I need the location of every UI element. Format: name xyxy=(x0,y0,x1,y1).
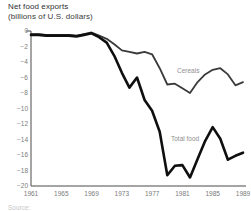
cereals-line xyxy=(31,33,243,94)
y-tick-label: −20 xyxy=(17,182,28,189)
y-tick-label: −8 xyxy=(21,89,29,96)
total-food-line xyxy=(31,33,243,177)
x-tick-label: 1973 xyxy=(115,190,130,197)
x-tick-label: 1965 xyxy=(54,190,69,197)
x-tick-label: 1969 xyxy=(84,190,99,197)
cereals-label: Cereals xyxy=(177,67,200,74)
y-tick-label: −14 xyxy=(17,136,28,143)
x-tick-label: 1985 xyxy=(205,190,220,197)
chart-panel: Net food exports (billions of U.S. dolla… xyxy=(0,0,251,211)
line-chart: 0−2−4−6−8−10−12−14−16−18−201961196519691… xyxy=(0,0,251,211)
y-tick-label: −2 xyxy=(21,43,29,50)
y-tick-label: −12 xyxy=(17,120,28,127)
source-note: Source: xyxy=(8,204,30,211)
x-tick-label: 1961 xyxy=(24,190,39,197)
x-tick-label: 1989 xyxy=(236,190,251,197)
y-tick-label: −18 xyxy=(17,167,28,174)
x-tick-label: 1981 xyxy=(175,190,190,197)
total-food-label: Total food xyxy=(171,135,200,142)
y-tick-label: 0 xyxy=(24,27,28,34)
x-tick-label: 1977 xyxy=(145,190,160,197)
y-tick-label: −10 xyxy=(17,105,28,112)
y-tick-label: −6 xyxy=(21,74,29,81)
y-tick-label: −16 xyxy=(17,151,28,158)
y-tick-label: −4 xyxy=(21,58,29,65)
